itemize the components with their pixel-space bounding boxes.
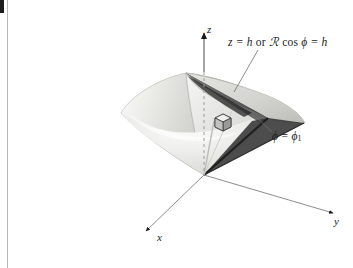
axis-y [204,175,333,213]
plane-eq-rhs: = h [310,36,327,48]
plane-eq-trig: cos [282,36,298,48]
axis-x [146,175,204,231]
plane-eq-lhs: z = h [228,36,253,48]
volume-element-cube [215,114,231,131]
plane-eq-conjunction: or [256,36,266,48]
label-plane-equation: z = h or ℛ cos ϕ = h [228,36,327,49]
axis-label-x: x [157,231,162,243]
wedge-eq-subscript: 1 [297,134,301,143]
leader-line-plane [234,50,258,92]
plane-eq-angle: ϕ [301,36,307,48]
label-wedge-equation: ϕ = ϕ1 [272,131,301,143]
figure-root: z = h or ℛ cos ϕ = h ϕ = ϕ1 z x y [0,0,353,268]
script-r-symbol: ℛ [269,35,279,49]
axis-label-y: y [334,215,339,227]
wedge-eq-equals: = [281,130,289,142]
axis-label-z: z [207,23,211,35]
wedge-eq-symbol: ϕ [272,130,278,142]
